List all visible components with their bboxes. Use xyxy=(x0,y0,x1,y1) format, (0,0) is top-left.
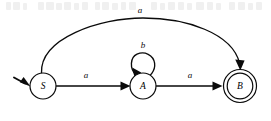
state-a-label: A xyxy=(139,81,146,91)
state-b-label: B xyxy=(237,81,243,91)
transition-s-to-b[interactable]: a xyxy=(41,5,244,73)
state-s-label: S xyxy=(41,81,46,91)
state-s[interactable]: S xyxy=(30,73,56,99)
transition-s-to-b-arrowhead xyxy=(235,60,244,71)
transition-s-to-a[interactable]: a xyxy=(57,70,131,91)
start-arrow-head xyxy=(20,77,31,87)
transition-a-to-b-label: a xyxy=(188,70,193,80)
transition-a-to-b-arrowhead xyxy=(213,81,223,90)
transition-a-self-loop-label: b xyxy=(141,40,146,50)
fsm-canvas: a a b a S xyxy=(0,0,271,121)
transition-s-to-b-label: a xyxy=(138,5,143,15)
transition-s-to-a-arrowhead xyxy=(121,81,131,90)
state-a[interactable]: A xyxy=(130,73,156,99)
transition-s-to-a-label: a xyxy=(84,70,89,80)
state-b[interactable]: B xyxy=(224,70,257,103)
transition-a-to-b[interactable]: a xyxy=(157,70,223,91)
fsm-diagram: a a b a S xyxy=(0,0,271,121)
start-arrow xyxy=(14,77,31,87)
